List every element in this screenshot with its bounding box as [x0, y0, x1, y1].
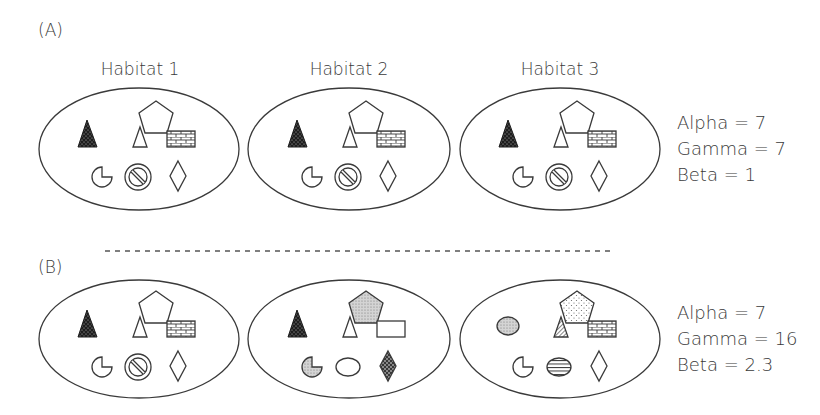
brick-rectangle-icon [588, 131, 616, 147]
habitat-1-b [39, 280, 239, 398]
dark-dotted-triangle-icon [288, 120, 307, 147]
dark-dotted-triangle-icon [499, 120, 518, 147]
gamma-value: Gamma = 16 [677, 326, 798, 352]
dark-dotted-triangle-icon [288, 310, 307, 337]
habitat-2-title: Habitat 2 [310, 59, 389, 79]
circle-slash-icon [335, 164, 361, 190]
crosshatched-diamond-icon [380, 351, 396, 381]
habitat-boundary [460, 280, 660, 398]
open-pentagon-icon [139, 101, 173, 133]
light-dotted-pentagon-icon [560, 291, 594, 323]
grey-dotted-pacman-icon [302, 357, 322, 377]
panel-b-label: (B) [38, 257, 62, 277]
open-pentagon-icon [560, 101, 594, 133]
habitat-boundary [39, 88, 239, 210]
open-pentagon-icon [139, 291, 173, 323]
habitat-boundary [248, 280, 450, 398]
dark-dotted-triangle-icon [78, 120, 97, 147]
open-diamond-icon [170, 351, 186, 381]
grey-dotted-ellipse-icon [497, 317, 519, 335]
open-diamond-icon [591, 161, 607, 191]
open-pentagon-icon [349, 101, 383, 133]
open-pacman-icon [302, 167, 322, 187]
habitat-2-a [248, 88, 450, 210]
grey-dotted-pentagon-icon [349, 291, 383, 323]
brick-rectangle-icon [377, 131, 405, 147]
habitat-1-a [39, 88, 239, 210]
open-diamond-icon [170, 161, 186, 191]
circle-slash-icon [546, 164, 572, 190]
gamma-value: Gamma = 7 [677, 136, 786, 162]
habitat-2-b [248, 280, 450, 398]
habitat-3-a [460, 88, 660, 210]
alpha-value: Alpha = 7 [677, 300, 798, 326]
panel-b [39, 280, 660, 398]
brick-rectangle-icon [167, 131, 195, 147]
panel-a [39, 88, 660, 210]
circle-slash-icon [125, 164, 151, 190]
open-pacman-icon [92, 167, 112, 187]
beta-value: Beta = 1 [677, 162, 786, 188]
open-pacman-icon [513, 167, 533, 187]
habitat-boundary [248, 88, 450, 210]
dark-dotted-triangle-icon [78, 310, 97, 337]
open-rectangle-icon [377, 321, 405, 337]
circle-slash-icon [125, 354, 151, 380]
open-pacman-icon [92, 357, 112, 377]
striped-ellipse-icon [547, 358, 571, 376]
brick-rectangle-icon [167, 321, 195, 337]
habitat-1-title: Habitat 1 [101, 59, 180, 79]
alpha-value: Alpha = 7 [677, 110, 786, 136]
brick-rectangle-icon [588, 321, 616, 337]
panel-a-stats: Alpha = 7 Gamma = 7 Beta = 1 [677, 110, 786, 188]
panel-a-label: (A) [38, 20, 63, 40]
panel-b-stats: Alpha = 7 Gamma = 16 Beta = 2.3 [677, 300, 798, 378]
open-pacman-icon [513, 357, 533, 377]
habitat-boundary [460, 88, 660, 210]
open-ellipse-icon [336, 358, 360, 376]
open-diamond-icon [380, 161, 396, 191]
habitat-3-b [460, 280, 660, 398]
habitat-3-title: Habitat 3 [521, 59, 600, 79]
open-diamond-icon [591, 351, 607, 381]
beta-value: Beta = 2.3 [677, 352, 798, 378]
